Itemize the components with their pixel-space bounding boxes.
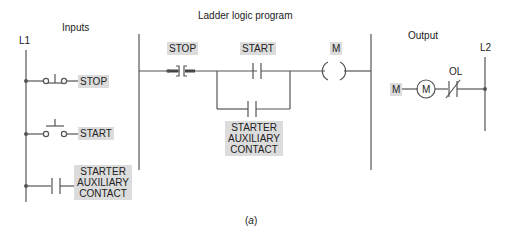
figure-caption: (a)	[245, 215, 257, 226]
program-aux-contact-label: STARTER AUXILIARY CONTACT	[225, 121, 283, 156]
input-aux-contact-label: STARTER AUXILIARY CONTACT	[74, 165, 132, 200]
overload-label: OL	[449, 66, 462, 77]
output-tag-label: M	[390, 83, 402, 96]
input-start-label: START	[78, 127, 114, 140]
aux-line-2: AUXILIARY	[227, 133, 281, 144]
aux-line-3: CONTACT	[227, 144, 281, 155]
aux-line-1: STARTER	[76, 166, 130, 177]
inputs-title: Inputs	[62, 22, 89, 33]
l1-label: L1	[19, 35, 30, 46]
aux-line-3: CONTACT	[76, 188, 130, 199]
program-stop-label: STOP	[167, 42, 198, 55]
program-coil-label: M	[330, 42, 342, 55]
l2-label: L2	[480, 42, 491, 53]
aux-line-2: AUXILIARY	[76, 177, 130, 188]
input-stop-label: STOP	[78, 75, 109, 88]
program-title: Ladder logic program	[198, 10, 293, 21]
motor-label: M	[422, 84, 430, 95]
program-start-label: START	[240, 42, 276, 55]
output-title: Output	[408, 30, 438, 41]
aux-line-1: STARTER	[227, 122, 281, 133]
